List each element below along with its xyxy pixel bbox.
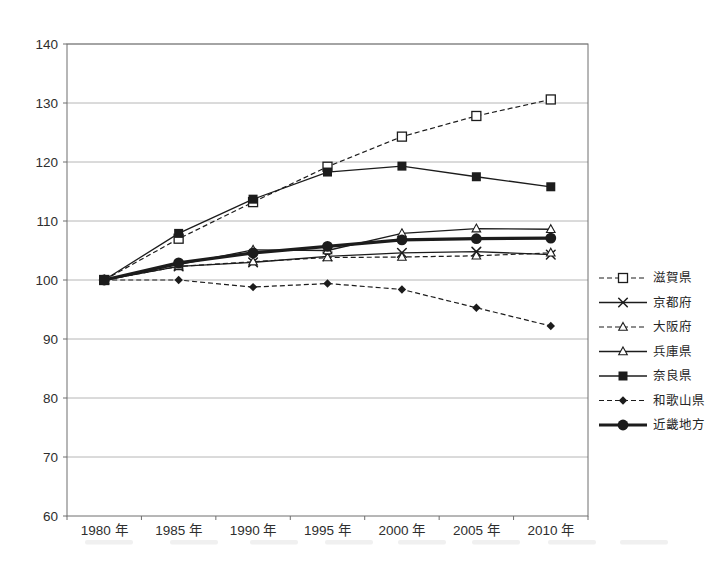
y-tick-label: 100 (35, 273, 58, 288)
open-square-marker (397, 132, 406, 141)
filled-circle-marker (397, 234, 408, 245)
filled-circle-marker (173, 257, 184, 268)
filled-square-marker (323, 168, 332, 177)
filled-square-marker (619, 372, 628, 381)
y-tick-label: 60 (43, 509, 58, 524)
legend-label-kinki: 近畿地方 (653, 417, 705, 432)
filled-circle-marker (322, 241, 333, 252)
y-tick-label: 70 (43, 450, 58, 465)
y-tick-label: 90 (43, 332, 58, 347)
filled-circle-marker (99, 275, 110, 286)
y-tick-label: 110 (36, 214, 58, 229)
filled-square-marker (174, 229, 183, 238)
x-tick-label: 2010 年 (527, 523, 574, 538)
x-tick-label: 1985 年 (155, 523, 202, 538)
x-tick-label: 2000 年 (379, 523, 426, 538)
x-tick-label: 1995 年 (304, 523, 351, 538)
filled-circle-marker (545, 233, 556, 244)
y-tick-label: 120 (35, 155, 58, 170)
legend-label-nara: 奈良県 (653, 368, 692, 383)
filled-square-marker (249, 195, 258, 204)
filled-circle-marker (248, 247, 259, 258)
filled-square-marker (472, 172, 481, 181)
legend-label-shiga: 滋賀県 (653, 270, 692, 285)
y-tick-label: 80 (43, 391, 58, 406)
y-tick-label: 130 (35, 96, 58, 111)
legend-label-kyoto: 京都府 (653, 295, 692, 310)
filled-square-marker (397, 162, 406, 171)
x-tick-label: 1980 年 (81, 523, 128, 538)
open-square-marker (546, 95, 555, 104)
page-background (0, 0, 717, 577)
legend-label-osaka: 大阪府 (653, 319, 692, 334)
filled-circle-marker (471, 233, 482, 244)
legend-label-hyogo: 兵庫県 (653, 345, 692, 359)
open-square-marker (472, 111, 481, 120)
legend-label-wakayama: 和歌山県 (653, 393, 705, 408)
open-square-marker (619, 274, 628, 283)
filled-circle-marker (618, 420, 629, 431)
x-tick-label: 1990 年 (230, 523, 277, 538)
y-tick-label: 140 (35, 37, 58, 52)
x-tick-label: 2005 年 (453, 523, 500, 538)
scanned-chart-page: 140130120110100908070601980 年1985 年1990 … (0, 0, 717, 577)
filled-square-marker (546, 182, 555, 191)
population-index-line-chart: 140130120110100908070601980 年1985 年1990 … (0, 0, 717, 577)
